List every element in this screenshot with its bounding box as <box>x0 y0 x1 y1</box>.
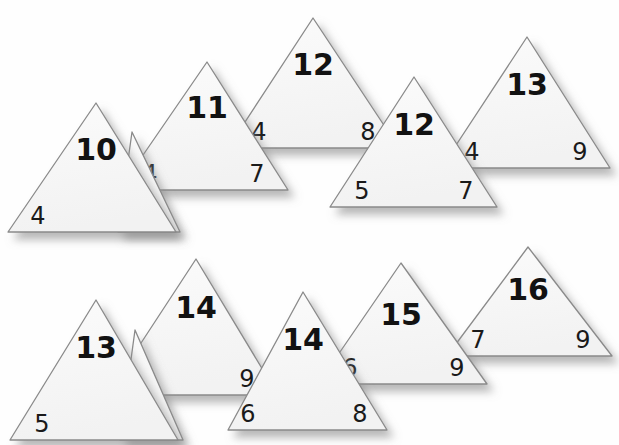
triangle-main-label: 12 <box>292 47 334 82</box>
triangle-13[interactable]: 1349 <box>441 37 610 168</box>
triangle-bottom-right-label: 8 <box>352 400 367 428</box>
triangle-bottom-left-label: 5 <box>34 410 49 438</box>
triangle-bottom-right-label: 9 <box>575 326 590 354</box>
triangle-bottom-right-label: 7 <box>249 160 264 188</box>
triangle-bottom-right-label: 7 <box>458 177 473 205</box>
triangle-main-label: 16 <box>507 272 549 307</box>
triangle-main-label: 10 <box>75 132 117 167</box>
triangle-main-label: 14 <box>282 322 324 357</box>
triangle-main-label: 11 <box>186 90 228 125</box>
triangles-svg: 1349124812571147610416791569145914688135 <box>0 0 619 445</box>
triangle-main-label: 13 <box>506 67 548 102</box>
triangle-bottom-left-label: 6 <box>240 400 255 428</box>
triangle-bottom-right-label: 9 <box>449 354 464 382</box>
triangle-bottom-left-label: 7 <box>470 326 485 354</box>
triangle-bottom-left-label: 5 <box>354 177 369 205</box>
triangle-16[interactable]: 1679 <box>447 247 612 356</box>
triangle-main-label: 15 <box>380 297 422 332</box>
triangle-12[interactable]: 1248 <box>228 18 399 148</box>
triangle-bottom-right-label: 9 <box>572 138 587 166</box>
triangle-main-label: 14 <box>175 290 217 325</box>
triangle-main-label: 13 <box>75 330 117 365</box>
triangle-bottom-left-label: 4 <box>30 202 45 230</box>
triangle-main-label: 12 <box>393 107 435 142</box>
triangles-canvas: 1349124812571147610416791569145914688135 <box>0 0 619 445</box>
